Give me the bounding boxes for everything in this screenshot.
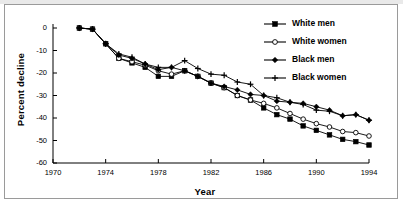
y-tick-label: -20 [23,68,47,77]
legend-markers [264,22,286,81]
x-tick-label: 1974 [89,168,123,177]
x-axis-title: Year [150,186,260,197]
x-tick-label: 1994 [352,168,386,177]
x-tick-label: 1986 [247,168,281,177]
y-tick-label: -40 [23,113,47,122]
plot-area [0,0,403,213]
x-tick-label: 1970 [36,168,70,177]
y-tick-label: 0 [23,23,47,32]
legend-label: White men [292,18,335,28]
y-axis-title: Percent decline [15,42,26,138]
x-tick-label: 1982 [194,168,228,177]
legend-label: Black men [292,54,335,64]
y-tick-label: -50 [23,136,47,145]
figure: Percent decline Year 0-10-20-30-40-50-60… [0,0,403,213]
x-tick-label: 1990 [299,168,333,177]
x-tick-label: 1978 [141,168,175,177]
legend-label: White women [292,36,347,46]
y-tick-label: -30 [23,91,47,100]
y-tick-label: -10 [23,46,47,55]
y-tick-label: -60 [23,158,47,167]
legend-label: Black women [292,72,346,82]
